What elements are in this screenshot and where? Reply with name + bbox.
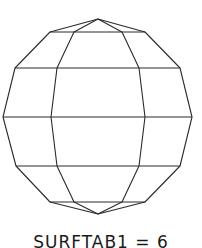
sphere-wireframe-drawing <box>0 0 202 248</box>
sphere-wireframe-figure: SURFTAB1 = 6 <box>0 0 202 248</box>
figure-caption: SURFTAB1 = 6 <box>0 232 202 248</box>
